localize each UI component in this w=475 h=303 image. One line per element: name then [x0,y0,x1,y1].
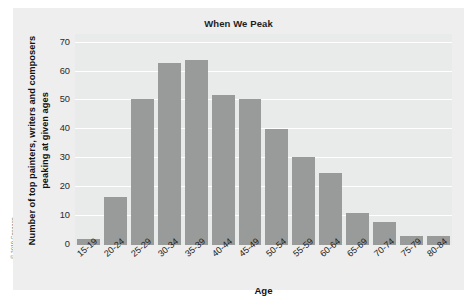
bar [212,95,235,245]
bar-slot: 30-34 [156,34,183,245]
y-axis-tick-label: 30 [60,152,70,162]
y-axis-tick-label: 20 [60,181,70,191]
x-axis-label: Age [75,285,452,296]
bar-slot: 25-29 [129,34,156,245]
bar [158,63,181,245]
bar-slot: 40-44 [210,34,237,245]
bar [131,99,154,245]
y-axis-tick-label: 0 [65,239,70,249]
bar-slot: 60-64 [317,34,344,245]
y-axis-tick-label: 60 [60,66,70,76]
y-axis-tick-label: 40 [60,123,70,133]
bar-slot: 50-54 [263,34,290,245]
bar-slot: 55-59 [290,34,317,245]
bar-slot: 80-84 [425,34,452,245]
y-axis-label: Number of top painters, writers and comp… [26,36,51,246]
bar-series: 15-1920-2425-2930-3435-3940-4445-4950-54… [75,34,452,245]
bar [239,99,262,245]
bar-slot: 45-49 [237,34,264,245]
bar [292,157,315,245]
bar [319,173,342,245]
bar [104,197,127,245]
figure-panel: When We Peak Number of top painters, wri… [13,8,464,290]
bar-slot: 75-79 [398,34,425,245]
plot-area: 010203040506070 15-1920-2425-2930-3435-3… [75,34,452,245]
bar-slot: 70-74 [371,34,398,245]
y-axis-tick-label: 10 [60,210,70,220]
y-axis-tick-label: 70 [60,37,70,47]
bar-slot: 20-24 [102,34,129,245]
chart-title: When We Peak [13,18,464,29]
y-axis-tick-label: 50 [60,94,70,104]
bar-slot: 15-19 [75,34,102,245]
bar [265,129,288,245]
bar-slot: 35-39 [183,34,210,245]
bar [185,60,208,245]
bar-slot: 65-69 [344,34,371,245]
